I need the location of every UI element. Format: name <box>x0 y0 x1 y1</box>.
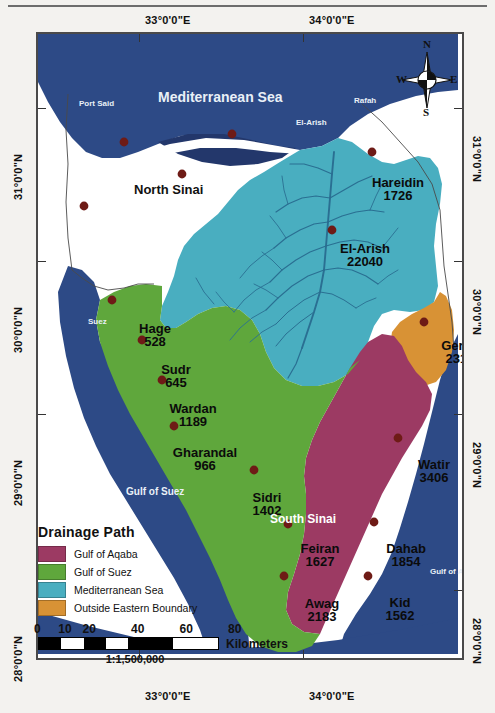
marker-point <box>80 202 89 211</box>
scale-tick-label: 80 <box>228 622 241 636</box>
tick-lon-33-top <box>139 34 140 42</box>
marker-point <box>158 376 167 385</box>
marker-point <box>228 130 237 139</box>
latitude-label: 29°0'0"N <box>471 442 483 506</box>
latitude-label: 31°0'0"N <box>471 136 483 200</box>
marker-point <box>370 518 379 527</box>
legend-swatch <box>38 582 66 598</box>
compass-north-label: N <box>423 38 431 50</box>
marker-point <box>420 318 429 327</box>
tick-lat-29-left <box>38 414 46 415</box>
tick-lat-30-right <box>454 261 462 262</box>
legend-swatch <box>38 546 66 562</box>
marker-point <box>280 572 289 581</box>
marker-point <box>250 466 259 475</box>
scale-bar: 01020406080 Kilometers 1:1,500,000 <box>38 622 288 665</box>
marker-point <box>178 170 187 179</box>
compass-west-label: W <box>396 73 407 85</box>
legend: Drainage Path Gulf of AqabaGulf of SuezM… <box>38 524 220 617</box>
tick-lat-28-right <box>454 590 462 591</box>
latitude-label: 30°0'0"N <box>12 289 24 353</box>
tick-lon-34-bottom <box>303 650 304 658</box>
compass-rose: N S W E <box>396 38 458 122</box>
marker-point <box>364 572 373 581</box>
tick-lon-34-top <box>303 34 304 42</box>
marker-point <box>138 336 147 345</box>
latitude-label: 30°0'0"N <box>471 289 483 353</box>
legend-label: Gulf of Suez <box>74 566 132 578</box>
latitude-label: 29°0'0"N <box>12 442 24 506</box>
marker-point <box>368 148 377 157</box>
scale-bar-graphic <box>38 637 219 650</box>
longitude-label: 34°0'0"E <box>309 14 355 26</box>
longitude-label: 34°0'0"E <box>309 690 355 702</box>
marker-point <box>170 422 179 431</box>
longitude-label: 33°0'0"E <box>145 690 191 702</box>
scale-ratio: 1:1,500,000 <box>38 653 232 665</box>
tick-lat-31-left <box>38 108 46 109</box>
legend-label: Gulf of Aqaba <box>74 548 138 560</box>
marker-point <box>120 138 129 147</box>
tick-lat-29-right <box>454 414 462 415</box>
marker-point <box>284 520 293 529</box>
latitude-label: 28°0'0"N <box>12 618 24 682</box>
legend-item: Gulf of Aqaba <box>38 545 220 562</box>
marker-point <box>108 296 117 305</box>
legend-label: Mediterranean Sea <box>74 584 163 596</box>
legend-item: Gulf of Suez <box>38 563 220 580</box>
map-figure: 33°0'0"E34°0'0"E 33°0'0"E34°0'0"E 31°0'0… <box>0 0 495 713</box>
marker-point <box>394 434 403 443</box>
scale-tick-label: 10 <box>58 622 71 636</box>
legend-label: Outside Eastern Boundary <box>74 602 197 614</box>
legend-items: Gulf of AqabaGulf of SuezMediterranean S… <box>38 545 220 616</box>
latitude-label: 31°0'0"N <box>12 136 24 200</box>
longitude-label: 33°0'0"E <box>145 14 191 26</box>
scale-bar-units: Kilometers <box>226 637 288 651</box>
header-rule <box>8 5 487 7</box>
scale-tick-label: 20 <box>83 622 96 636</box>
compass-star <box>402 52 452 108</box>
marker-point <box>328 226 337 235</box>
legend-title: Drainage Path <box>38 524 220 540</box>
compass-east-label: E <box>450 73 457 85</box>
compass-south-label: S <box>423 106 429 118</box>
scale-tick-label: 0 <box>34 622 41 636</box>
legend-swatch <box>38 600 66 616</box>
tick-lat-30-left <box>38 261 46 262</box>
scale-tick-label: 60 <box>180 622 193 636</box>
legend-item: Outside Eastern Boundary <box>38 599 220 616</box>
legend-item: Mediterranean Sea <box>38 581 220 598</box>
scale-tick-label: 40 <box>131 622 144 636</box>
latitude-label: 28°0'0"N <box>471 618 483 682</box>
legend-swatch <box>38 564 66 580</box>
scale-bar-ticks: 01020406080 <box>38 622 288 637</box>
